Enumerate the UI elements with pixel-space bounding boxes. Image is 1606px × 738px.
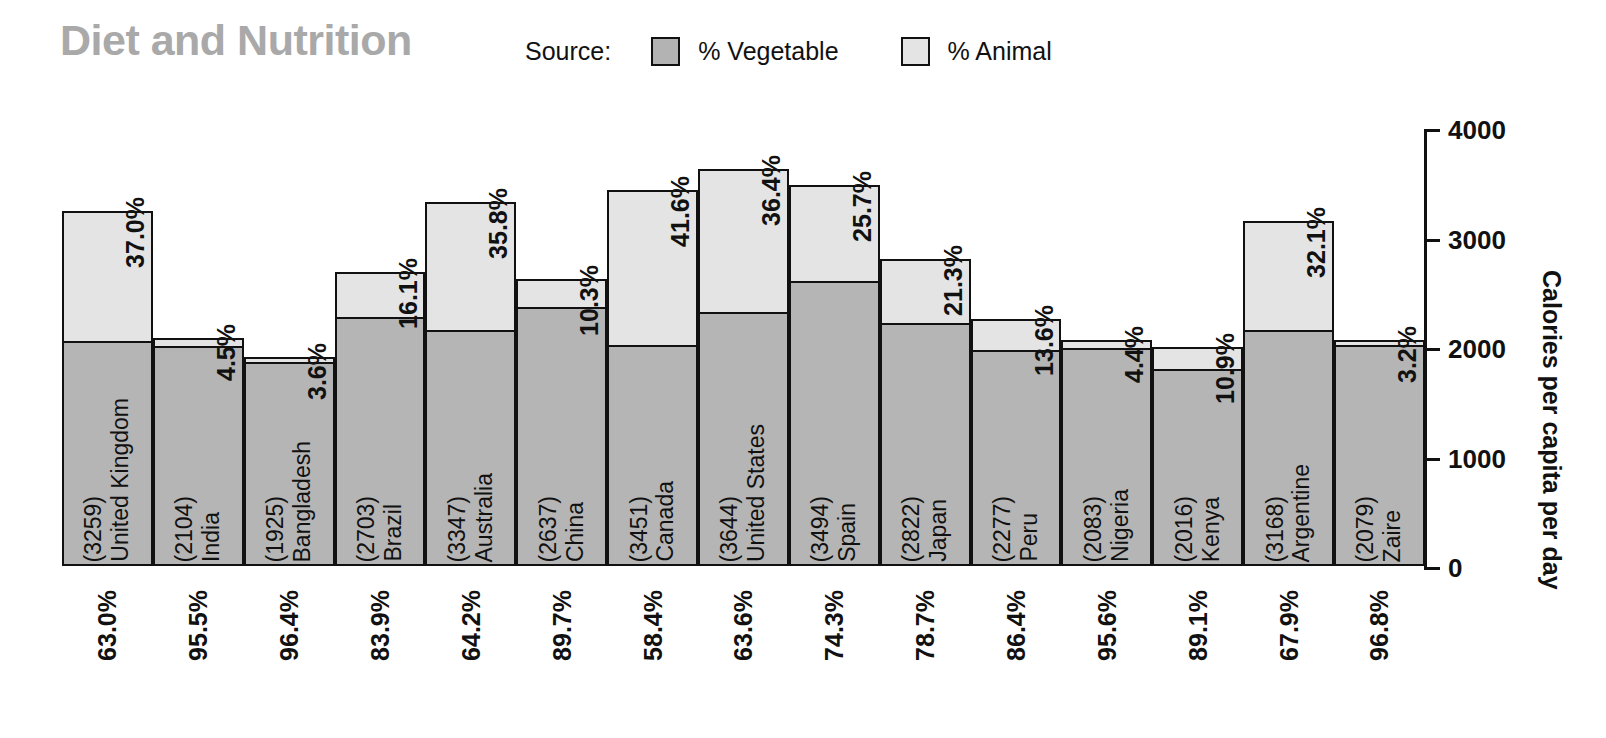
y-axis-tick-label: 3000 [1448, 224, 1506, 255]
bar-column[interactable]: 13.6%Peru(2277) [971, 130, 1062, 568]
bar-column[interactable]: 4.5%India(2104) [153, 130, 244, 568]
bar-column[interactable]: 3.6%Bangladesh(1925) [244, 130, 335, 568]
vegetable-percent-cell: 74.3% [789, 580, 880, 710]
vegetable-percent-label: 96.8% [1365, 590, 1394, 661]
vegetable-percent-label: 63.6% [729, 590, 758, 661]
animal-percent-label: 3.2% [1393, 326, 1422, 383]
legend-item-animal[interactable]: % Animal [901, 37, 1052, 66]
vegetable-percent-label: 95.5% [184, 590, 213, 661]
animal-percent-label: 21.3% [939, 245, 968, 316]
animal-percent-label: 36.4% [757, 155, 786, 226]
animal-percent-label: 10.9% [1211, 333, 1240, 404]
y-axis-tick [1424, 348, 1440, 351]
legend-label-vegetable: % Vegetable [698, 37, 838, 66]
bar-segment-vegetable[interactable] [971, 350, 1062, 565]
bar-column[interactable]: 35.8%Australia(3347) [425, 130, 516, 568]
y-axis-tick-label: 0 [1448, 553, 1462, 584]
y-axis-tick [1424, 458, 1440, 461]
bar-segment-vegetable[interactable] [880, 323, 971, 566]
bar-column[interactable]: 16.1%Brazil(2703) [335, 130, 426, 568]
animal-percent-label: 10.3% [575, 265, 604, 336]
animal-swatch-icon [901, 37, 930, 66]
legend-item-vegetable[interactable]: % Vegetable [651, 37, 838, 66]
bar-segment-vegetable[interactable] [607, 345, 698, 566]
vegetable-percent-label: 78.7% [911, 590, 940, 661]
bar-segment-vegetable[interactable] [1243, 330, 1334, 566]
bar-column[interactable]: 37.0%United Kingdom(3259) [62, 130, 153, 568]
vegetable-percent-cell: 95.5% [153, 580, 244, 710]
animal-percent-label: 32.1% [1302, 207, 1331, 278]
y-axis-tick-label: 1000 [1448, 443, 1506, 474]
vegetable-percent-row: 63.0%95.5%96.4%83.9%64.2%89.7%58.4%63.6%… [62, 580, 1425, 710]
animal-percent-label: 3.6% [303, 343, 332, 400]
vegetable-percent-cell: 58.4% [607, 580, 698, 710]
legend-label-animal: % Animal [948, 37, 1052, 66]
y-axis-label: Calories per capita per day [1537, 270, 1566, 590]
vegetable-percent-label: 86.4% [1002, 590, 1031, 661]
vegetable-percent-label: 96.4% [275, 590, 304, 661]
vegetable-percent-cell: 67.9% [1243, 580, 1334, 710]
animal-percent-label: 25.7% [848, 171, 877, 242]
bar-column[interactable]: 32.1%Argentine(3168) [1243, 130, 1334, 568]
vegetable-percent-cell: 95.6% [1061, 580, 1152, 710]
vegetable-percent-label: 63.0% [93, 590, 122, 661]
bar-column[interactable]: 3.2%Zaire(2079) [1334, 130, 1425, 568]
page-title: Diet and Nutrition [60, 15, 412, 65]
vegetable-percent-label: 89.7% [547, 590, 576, 661]
chart-header: Diet and Nutrition Source: % Vegetable %… [0, 0, 1606, 96]
bar-column[interactable]: 10.3%China(2637) [516, 130, 607, 568]
vegetable-percent-cell: 89.7% [516, 580, 607, 710]
vegetable-swatch-icon [651, 37, 680, 66]
bar-segment-vegetable[interactable] [62, 341, 153, 566]
chart-legend: Source: % Vegetable % Animal [525, 33, 1114, 69]
stacked-bar[interactable] [698, 169, 789, 568]
vegetable-percent-cell: 63.0% [62, 580, 153, 710]
bar-column[interactable]: 41.6%Canada(3451) [607, 130, 698, 568]
y-axis-tick-label: 4000 [1448, 115, 1506, 146]
animal-percent-label: 35.8% [484, 188, 513, 259]
vegetable-percent-cell: 89.1% [1152, 580, 1243, 710]
bar-column[interactable]: 21.3%Japan(2822) [880, 130, 971, 568]
y-axis-tick [1424, 129, 1440, 132]
vegetable-percent-label: 95.6% [1092, 590, 1121, 661]
vegetable-percent-label: 64.2% [456, 590, 485, 661]
bar-column[interactable]: 4.4%Nigeria(2083) [1061, 130, 1152, 568]
vegetable-percent-label: 89.1% [1183, 590, 1212, 661]
vegetable-percent-cell: 96.8% [1334, 580, 1425, 710]
vegetable-percent-cell: 64.2% [425, 580, 516, 710]
y-axis-tick [1424, 239, 1440, 242]
vegetable-percent-label: 58.4% [638, 590, 667, 661]
vegetable-percent-label: 83.9% [366, 590, 395, 661]
vegetable-percent-cell: 63.6% [698, 580, 789, 710]
stacked-bar[interactable] [789, 185, 880, 568]
animal-percent-label: 41.6% [666, 176, 695, 247]
y-axis-tick [1424, 567, 1440, 570]
bar-column[interactable]: 10.9%Kenya(2016) [1152, 130, 1243, 568]
animal-percent-label: 37.0% [121, 197, 150, 268]
bar-segment-vegetable[interactable] [516, 307, 607, 566]
animal-percent-label: 16.1% [393, 258, 422, 329]
plot-area: 37.0%United Kingdom(3259)4.5%India(2104)… [62, 130, 1425, 568]
chart-root: Diet and Nutrition Source: % Vegetable %… [0, 0, 1606, 738]
vegetable-percent-cell: 96.4% [244, 580, 335, 710]
bar-column[interactable]: 36.4%United States(3644) [698, 130, 789, 568]
bar-segment-vegetable[interactable] [425, 330, 516, 565]
bar-segment-vegetable[interactable] [335, 317, 426, 565]
animal-percent-label: 4.5% [212, 324, 241, 381]
vegetable-percent-cell: 78.7% [880, 580, 971, 710]
bar-series-container: 37.0%United Kingdom(3259)4.5%India(2104)… [62, 130, 1425, 568]
bar-segment-vegetable[interactable] [698, 312, 789, 566]
animal-percent-label: 4.4% [1120, 326, 1149, 383]
vegetable-percent-cell: 86.4% [971, 580, 1062, 710]
animal-percent-label: 13.6% [1029, 305, 1058, 376]
vegetable-percent-label: 74.3% [820, 590, 849, 661]
vegetable-percent-cell: 83.9% [335, 580, 426, 710]
bar-segment-vegetable[interactable] [789, 281, 880, 565]
vegetable-percent-label: 67.9% [1274, 590, 1303, 661]
y-axis-tick-label: 2000 [1448, 334, 1506, 365]
legend-source-label: Source: [525, 37, 611, 66]
bar-column[interactable]: 25.7%Spain(3494) [789, 130, 880, 568]
